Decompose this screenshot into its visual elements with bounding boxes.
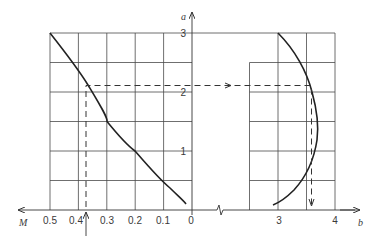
nomogram-diagram: 3 2 1 0.5 0.4 0.3 0.2 0.1 0 3 4 a M b (0, 0, 379, 243)
y-tick-2: 2 (180, 87, 186, 98)
axis-break (192, 205, 355, 215)
b-axis-label: b (358, 217, 363, 228)
b-tick-3: 3 (276, 215, 282, 226)
chart-svg: 3 2 1 0.5 0.4 0.3 0.2 0.1 0 3 4 a M b (0, 0, 379, 243)
m-axis-label: M (18, 217, 28, 228)
m-tick-0.4: 0.4 (69, 215, 83, 226)
m-tick-0.1: 0.1 (156, 215, 170, 226)
m-tick-0: 0 (188, 215, 194, 226)
m-tick-0.3: 0.3 (100, 215, 114, 226)
a-axis-label: a (181, 11, 186, 22)
y-tick-1: 1 (180, 146, 186, 157)
y-tick-3: 3 (180, 28, 186, 39)
m-tick-0.2: 0.2 (128, 215, 142, 226)
right-grid (192, 33, 335, 210)
m-curve (50, 33, 186, 204)
b-tick-4: 4 (332, 215, 338, 226)
m-tick-0.5: 0.5 (43, 215, 57, 226)
